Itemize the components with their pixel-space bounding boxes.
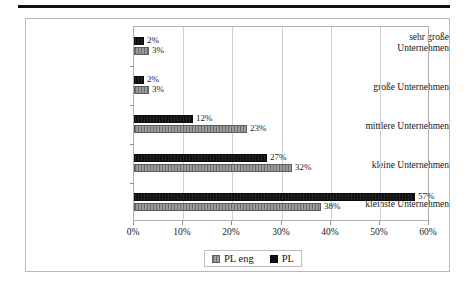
legend-swatch-icon-pl-eng <box>212 255 220 263</box>
bar-pleng-0[interactable] <box>134 47 149 55</box>
xtick-label-20: 20% <box>211 227 251 237</box>
xtick-label-60: 60% <box>408 227 448 237</box>
xtick-mark-0 <box>133 221 134 225</box>
bar-pl-2[interactable] <box>134 115 193 123</box>
legend-label-pl-eng: PL eng <box>224 253 254 264</box>
bar-pleng-4[interactable] <box>134 203 321 211</box>
bar-pleng-1[interactable] <box>134 86 149 94</box>
bar-value-pl-1: 2% <box>147 74 159 84</box>
bar-value-pleng-4: 38% <box>324 201 341 211</box>
bar-pleng-3[interactable] <box>134 164 292 172</box>
bar-pl-0[interactable] <box>134 37 144 45</box>
bar-group-kleinste-unternehmen: 57% 38% <box>134 183 428 222</box>
bar-pleng-2[interactable] <box>134 125 247 133</box>
bar-pl-1[interactable] <box>134 76 144 84</box>
bar-group-sehr-grosse-unternehmen: 2% 3% <box>134 27 428 66</box>
bar-value-pl-2: 12% <box>196 113 213 123</box>
xtick-label-0: 0% <box>113 227 153 237</box>
plot-area: 2% 3% 2% 3% 12% 23% 27% 32% 57% <box>133 26 429 221</box>
bar-group-mittlere-unternehmen: 12% 23% <box>134 105 428 144</box>
chart-legend: PL eng PL <box>204 250 302 267</box>
xtick-label-10: 10% <box>162 227 202 237</box>
xtick-mark-10 <box>182 221 183 225</box>
xtick-label-50: 50% <box>359 227 399 237</box>
legend-entry-pl-eng[interactable]: PL eng <box>212 253 254 264</box>
bar-value-pl-3: 27% <box>270 152 287 162</box>
bar-group-kleine-unternehmen: 27% 32% <box>134 144 428 183</box>
legend-entry-pl[interactable]: PL <box>270 253 294 264</box>
legend-swatch-icon-pl <box>270 255 278 263</box>
xtick-mark-40 <box>330 221 331 225</box>
xtick-label-30: 30% <box>261 227 301 237</box>
bar-value-pleng-1: 3% <box>152 84 164 94</box>
bar-group-grosse-unternehmen: 2% 3% <box>134 66 428 105</box>
bar-pl-3[interactable] <box>134 154 267 162</box>
xtick-mark-30 <box>281 221 282 225</box>
top-divider-rule <box>18 5 450 8</box>
bar-value-pl-4: 57% <box>418 191 435 201</box>
xtick-mark-50 <box>379 221 380 225</box>
bar-value-pleng-3: 32% <box>295 162 312 172</box>
bar-pl-4[interactable] <box>134 193 415 201</box>
bar-value-pl-0: 2% <box>147 35 159 45</box>
bar-value-pleng-0: 3% <box>152 45 164 55</box>
legend-label-pl: PL <box>282 253 294 264</box>
xtick-mark-20 <box>231 221 232 225</box>
xtick-mark-60 <box>428 221 429 225</box>
xtick-label-40: 40% <box>310 227 350 237</box>
bar-value-pleng-2: 23% <box>250 123 267 133</box>
chart-frame: sehr große Unternehmen große Unternehmen… <box>25 18 450 272</box>
